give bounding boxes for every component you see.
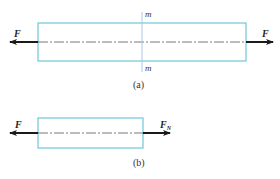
figure-a: F F m m (a) xyxy=(10,9,273,91)
caption-a: (a) xyxy=(133,79,144,91)
normal-force-subscript: N xyxy=(166,125,172,131)
normal-force-label-b: FN xyxy=(159,119,172,131)
left-force-label-b: F xyxy=(14,119,22,130)
caption-b: (b) xyxy=(133,157,145,169)
section-label-bottom: m xyxy=(145,63,152,73)
section-label-top: m xyxy=(145,9,152,19)
axial-bar-diagram: F F m m (a) F FN (b) xyxy=(0,0,280,179)
figure-b: F FN (b) xyxy=(10,118,172,169)
left-force-label-a: F xyxy=(13,28,21,39)
right-force-label-a: F xyxy=(261,28,269,39)
